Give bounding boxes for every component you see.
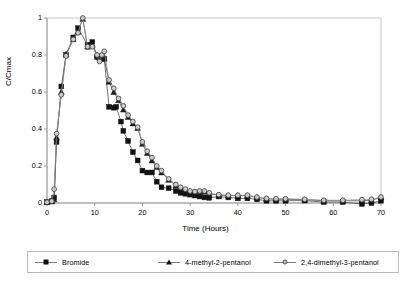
legend-row: Bromide4-methyl-2-pentanol2,4-dimethyl-3… <box>28 252 398 272</box>
figure-root: C/Cmax Time (Hours) 00.20.40.60.81 01020… <box>0 0 411 285</box>
chart-series-3 <box>45 16 384 205</box>
y-tick-label: 1 <box>20 13 42 22</box>
x-axis-title: Time (Hours) <box>0 224 411 233</box>
x-tick-label: 50 <box>275 208 297 217</box>
legend-marker-icon <box>158 257 180 267</box>
legend-entry-1[interactable]: Bromide <box>35 257 89 267</box>
y-tick-label: 0.8 <box>20 50 42 59</box>
series-line <box>47 18 381 202</box>
x-tick-label: 70 <box>370 208 392 217</box>
x-tick-label: 20 <box>131 208 153 217</box>
y-tick-label: 0.6 <box>20 87 42 96</box>
legend-marker-icon <box>274 257 296 267</box>
series-markers <box>45 16 384 205</box>
series-line <box>47 19 381 202</box>
x-tick-label: 0 <box>36 208 58 217</box>
legend-entry-3[interactable]: 2,4-dimethyl-3-pentanol <box>274 257 379 267</box>
chart-legend: Bromide4-methyl-2-pentanol2,4-dimethyl-3… <box>27 251 399 273</box>
chart-svg <box>0 0 411 240</box>
x-tick-label: 60 <box>322 208 344 217</box>
legend-label: Bromide <box>62 258 89 267</box>
y-tick-label: 0.2 <box>20 161 42 170</box>
y-tick-label: 0 <box>20 198 42 207</box>
legend-marker-icon <box>35 257 57 267</box>
legend-label: 4-methyl-2-pentanol <box>185 258 251 267</box>
x-tick-label: 10 <box>84 208 106 217</box>
legend-label: 2,4-dimethyl-3-pentanol <box>301 258 379 267</box>
series-markers <box>44 16 384 205</box>
x-tick-label: 40 <box>227 208 249 217</box>
chart-series-2 <box>44 16 384 205</box>
plot-frame <box>47 18 381 203</box>
x-tick-label: 30 <box>179 208 201 217</box>
chart-plot-area <box>0 0 411 240</box>
y-tick-label: 0.4 <box>20 124 42 133</box>
legend-entry-2[interactable]: 4-methyl-2-pentanol <box>158 257 251 267</box>
y-axis-title: C/Cmax <box>4 57 13 86</box>
